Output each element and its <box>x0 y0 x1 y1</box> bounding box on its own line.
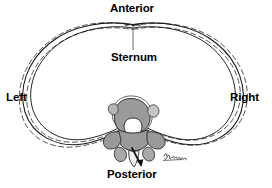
thorax-cross-section-figure: Anterior Sternum Left Right Posterior <box>0 0 272 188</box>
label-posterior: Posterior <box>107 169 157 181</box>
label-sternum: Sternum <box>111 52 157 64</box>
artist-signature <box>163 154 186 161</box>
label-right: Right <box>230 92 259 104</box>
label-left: Left <box>6 92 27 104</box>
label-anterior: Anterior <box>110 3 154 15</box>
